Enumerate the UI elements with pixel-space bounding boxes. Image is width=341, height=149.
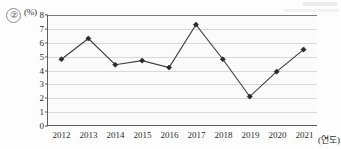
y-tick-label-3: 3 bbox=[40, 79, 45, 89]
x-tick-label-2013: 2013 bbox=[80, 130, 98, 140]
data-point-2015 bbox=[140, 58, 145, 63]
x-tick-label-2014: 2014 bbox=[107, 130, 125, 140]
x-tick-label-2021: 2021 bbox=[296, 130, 314, 140]
y-tick-label-6: 6 bbox=[40, 38, 45, 48]
x-tick-label-2020: 2020 bbox=[269, 130, 287, 140]
plot-area: 012345678 201220132014201520162017201820… bbox=[47, 15, 317, 126]
y-axis-unit-label: (%) bbox=[24, 7, 37, 17]
x-tick-label-2015: 2015 bbox=[134, 130, 152, 140]
series-line bbox=[61, 25, 303, 97]
y-tick-label-0: 0 bbox=[40, 121, 45, 131]
x-tick-label-2012: 2012 bbox=[53, 130, 71, 140]
y-tick-label-2: 2 bbox=[40, 93, 45, 103]
scan-artifact bbox=[303, 2, 337, 6]
y-tick-label-7: 7 bbox=[40, 24, 45, 34]
x-tick-label-2016: 2016 bbox=[161, 130, 179, 140]
y-tick-label-4: 4 bbox=[40, 66, 45, 76]
data-point-2016 bbox=[166, 65, 171, 70]
chart-screenshot: ② (%) 012345678 201220132014201520162017… bbox=[0, 0, 341, 149]
data-series bbox=[48, 15, 317, 126]
y-tick-label-8: 8 bbox=[40, 10, 45, 20]
y-tick-mark-0 bbox=[45, 126, 48, 127]
x-tick-label-2019: 2019 bbox=[242, 130, 260, 140]
x-tick-label-2018: 2018 bbox=[215, 130, 233, 140]
item-number-badge: ② bbox=[6, 8, 21, 23]
y-tick-label-5: 5 bbox=[40, 52, 45, 62]
x-axis-title: (연도) bbox=[318, 133, 340, 146]
x-tick-label-2017: 2017 bbox=[188, 130, 206, 140]
y-tick-label-1: 1 bbox=[40, 107, 45, 117]
scan-artifact-secondary bbox=[284, 9, 339, 12]
